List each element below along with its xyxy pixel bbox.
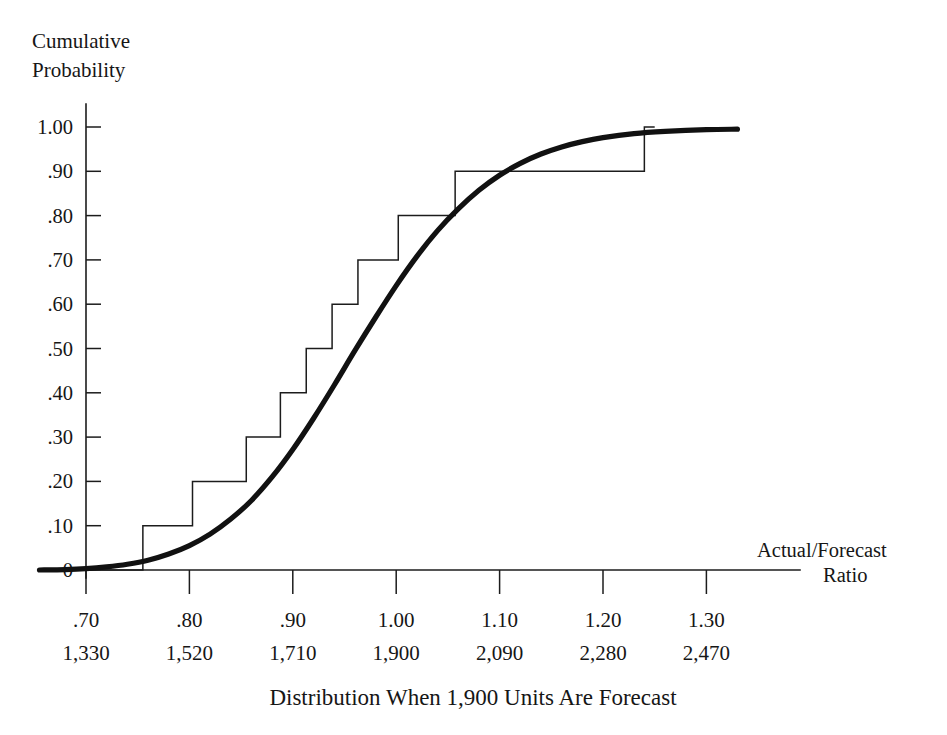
cumulative-probability-chart: Cumulative Probability 0.10.20.30.40.50.…	[0, 0, 947, 735]
x-axis-secondary-labels: 1,3301,5201,7101,9002,0902,2802,470	[62, 641, 730, 665]
x-secondary-label-6: 2,470	[683, 641, 730, 665]
x-tick-label-5: 1.20	[585, 608, 622, 632]
y-tick-label-5: .50	[47, 338, 73, 360]
smooth-cumulative-curve	[39, 129, 737, 570]
y-tick-label-1: .10	[47, 515, 73, 537]
x-secondary-label-2: 1,710	[269, 641, 316, 665]
x-tick-label-2: .90	[280, 608, 306, 632]
y-axis-tick-labels: 0.10.20.30.40.50.60.70.80.901.00	[37, 116, 73, 581]
x-secondary-label-1: 1,520	[166, 641, 213, 665]
y-tick-label-8: .80	[47, 205, 73, 227]
x-tick-label-1: .80	[176, 608, 202, 632]
y-tick-label-2: .20	[47, 470, 73, 492]
chart-figure: Cumulative Probability 0.10.20.30.40.50.…	[0, 0, 947, 735]
y-tick-label-7: .70	[47, 249, 73, 271]
x-axis-title-group: Actual/Forecast Ratio	[757, 539, 887, 586]
x-tick-label-0: .70	[73, 608, 99, 632]
x-secondary-label-5: 2,280	[579, 641, 626, 665]
x-secondary-label-0: 1,330	[62, 641, 109, 665]
chart-title-group: Cumulative Probability	[32, 29, 130, 82]
y-axis-ticks	[86, 127, 101, 526]
x-axis-ticks	[86, 570, 706, 594]
x-secondary-label-3: 1,900	[373, 641, 420, 665]
y-tick-label-6: .60	[47, 293, 73, 315]
y-tick-label-4: .40	[47, 382, 73, 404]
chart-title-line-2: Probability	[32, 58, 126, 82]
y-tick-label-3: .30	[47, 426, 73, 448]
x-axis-tick-labels: .70.80.901.001.101.201.30	[73, 608, 725, 632]
x-axis-title-line-2: Ratio	[823, 564, 867, 586]
x-tick-label-6: 1.30	[688, 608, 725, 632]
x-tick-label-3: 1.00	[378, 608, 415, 632]
x-tick-label-4: 1.10	[481, 608, 518, 632]
chart-title-line-1: Cumulative	[32, 29, 130, 53]
empirical-step-series	[39, 127, 654, 570]
chart-caption: Distribution When 1,900 Units Are Foreca…	[269, 685, 677, 710]
y-tick-label-10: 1.00	[37, 116, 73, 138]
x-secondary-label-4: 2,090	[476, 641, 523, 665]
y-tick-label-9: .90	[47, 160, 73, 182]
x-axis-title-line-1: Actual/Forecast	[757, 539, 887, 561]
